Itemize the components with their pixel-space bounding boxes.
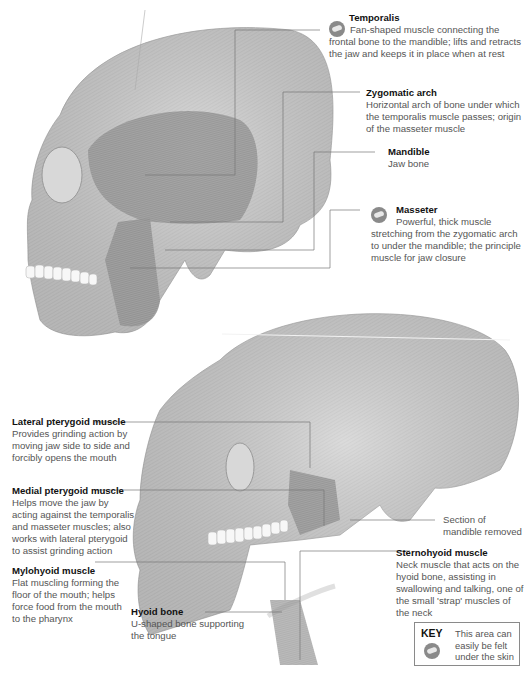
label-desc: U-shaped bone supporting the tongue [131, 618, 244, 641]
label-desc: Powerful, thick muscle stretching from t… [371, 216, 521, 264]
label-lateral-pterygoid: Lateral pterygoid muscle Provides grindi… [12, 416, 140, 464]
key-title: KEY [421, 627, 443, 639]
label-title: Temporalis [329, 12, 527, 24]
label-desc: Helps move the jaw by acting against the… [12, 497, 134, 556]
label-desc: Flat muscling forming the floor of the m… [12, 577, 122, 624]
label-desc: Provides grinding action by moving jaw s… [12, 428, 130, 463]
label-temporalis: Temporalis Fan-shaped muscle connecting … [329, 12, 527, 60]
label-desc: Horizontal arch of bone under which the … [366, 99, 521, 134]
label-title: Mylohyoid muscle [12, 565, 130, 577]
label-title: Masseter [371, 204, 521, 216]
label-masseter: Masseter Powerful, thick muscle stretchi… [371, 204, 521, 264]
key-desc: This area can easily be felt under the s… [455, 628, 517, 663]
key-box: KEY This area can easily be felt under t… [414, 622, 520, 666]
label-section-removed: Section of mandible removed [443, 514, 527, 538]
label-desc: Jaw bone [388, 158, 429, 169]
label-medial-pterygoid: Medial pterygoid muscle Helps move the j… [12, 485, 136, 557]
upper-skull [26, 10, 333, 336]
label-sternohyoid: Sternohyoid muscle Neck muscle that acts… [396, 547, 526, 619]
label-title: Zygomatic arch [366, 87, 526, 99]
label-mylohyoid: Mylohyoid muscle Flat muscling forming t… [12, 565, 130, 625]
label-hyoid-bone: Hyoid bone U-shaped bone supporting the … [131, 606, 251, 642]
label-title: Mandible [388, 146, 518, 158]
label-desc: Fan-shaped muscle connecting the frontal… [329, 24, 527, 60]
label-mandible: Mandible Jaw bone [388, 146, 518, 170]
label-desc: Neck muscle that acts on the hyoid bone,… [396, 559, 523, 618]
label-desc: Section of mandible removed [443, 514, 522, 537]
label-title: Sternohyoid muscle [396, 547, 526, 559]
neck-muscles [270, 600, 318, 665]
label-title: Medial pterygoid muscle [12, 485, 136, 497]
label-title: Hyoid bone [131, 606, 251, 618]
label-zygomatic-arch: Zygomatic arch Horizontal arch of bone u… [366, 87, 526, 135]
label-title: Lateral pterygoid muscle [12, 416, 140, 428]
palpable-hand-icon [424, 643, 440, 659]
